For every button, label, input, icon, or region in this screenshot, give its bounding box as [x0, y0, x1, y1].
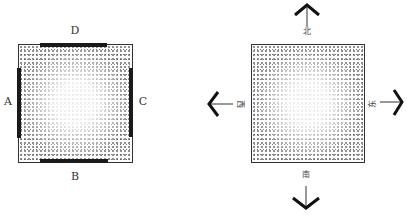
east-label: 东 [369, 100, 377, 108]
north-arrow-icon [292, 2, 322, 30]
east-arrow-icon [380, 87, 406, 117]
label-right: C [136, 96, 150, 107]
west-label: 西 [236, 100, 244, 108]
north-label: 北 [303, 28, 311, 36]
south-label: 南 [302, 171, 310, 179]
side-bar-top [40, 43, 107, 47]
left-square [18, 44, 133, 163]
side-bar-bottom [40, 159, 108, 163]
label-top: D [68, 25, 82, 36]
right-square [251, 44, 365, 163]
west-arrow-icon [206, 89, 234, 119]
label-bottom: B [68, 171, 82, 182]
side-bar-left [17, 68, 21, 138]
side-bar-right [129, 68, 133, 137]
south-arrow-icon [290, 184, 322, 212]
label-left: A [1, 96, 15, 107]
